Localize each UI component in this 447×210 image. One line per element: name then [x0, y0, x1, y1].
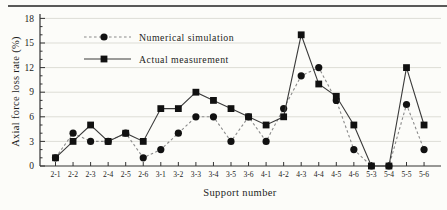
data-point-circle	[175, 130, 182, 137]
x-tick-label: 2-6	[138, 170, 148, 179]
legend-circle-marker	[100, 33, 107, 40]
data-point-circle	[263, 138, 270, 145]
data-point-square	[280, 113, 287, 120]
legend-square-marker	[101, 56, 108, 63]
data-point-square	[210, 97, 217, 104]
x-tick-label: 2-1	[50, 170, 60, 179]
data-point-square	[70, 138, 77, 145]
data-point-circle	[69, 130, 76, 137]
y-tick-label: 12	[25, 63, 35, 73]
data-point-square	[175, 105, 182, 112]
data-point-circle	[210, 113, 217, 120]
chart-figure: 03691215182-12-22-32-42-52-63-13-23-33-4…	[0, 0, 447, 210]
x-tick-label: 4-1	[261, 170, 271, 179]
x-tick-label: 5-3	[366, 170, 376, 179]
data-point-square	[298, 31, 305, 38]
x-tick-label: 3-3	[191, 170, 201, 179]
y-ticks	[40, 18, 45, 166]
data-point-circle	[140, 154, 147, 161]
x-tick-label: 2-5	[121, 170, 131, 179]
data-point-square	[263, 122, 270, 129]
legend-label: Numerical simulation	[139, 32, 234, 43]
y-tick-label: 3	[29, 137, 34, 147]
x-tick-label: 3-4	[208, 170, 218, 179]
data-point-square	[333, 93, 340, 100]
data-point-square	[403, 64, 410, 71]
data-point-circle	[192, 113, 199, 120]
data-point-square	[52, 154, 59, 161]
y-tick-labels: 0369121518	[25, 14, 35, 172]
x-tick-label: 5-5	[401, 170, 411, 179]
x-tick-label: 3-6	[243, 170, 253, 179]
x-tick-label: 3-2	[173, 170, 183, 179]
data-point-circle	[298, 72, 305, 79]
x-tick-label: 2-2	[68, 170, 78, 179]
x-axis-label: Support number	[40, 187, 440, 198]
data-point-square	[386, 163, 393, 170]
data-point-square	[122, 130, 129, 137]
data-point-circle	[420, 146, 427, 153]
legend: Numerical simulationActual measurement	[84, 32, 234, 65]
x-tick-label: 4-2	[279, 170, 289, 179]
series-actual-measurement	[52, 31, 427, 169]
data-point-square	[245, 113, 252, 120]
x-tick-label: 5-6	[419, 170, 429, 179]
data-point-circle	[87, 138, 94, 145]
legend-item-actual-measurement: Actual measurement	[84, 54, 229, 65]
y-tick-label: 9	[29, 87, 34, 97]
data-point-square	[193, 89, 200, 96]
x-tick-label: 2-3	[86, 170, 96, 179]
x-tick-label: 2-4	[103, 170, 113, 179]
data-point-square	[157, 105, 164, 112]
data-point-circle	[315, 64, 322, 71]
data-point-square	[228, 105, 235, 112]
x-tick-label: 4-3	[296, 170, 306, 179]
y-tick-label: 0	[29, 161, 34, 171]
x-tick-label: 3-5	[226, 170, 236, 179]
series-actual-measurement-line	[56, 35, 425, 166]
data-point-circle	[157, 146, 164, 153]
data-point-square	[350, 122, 357, 129]
data-point-square	[315, 81, 322, 88]
series-actual-measurement-markers	[52, 31, 427, 169]
y-tick-label: 18	[25, 14, 35, 24]
data-point-square	[368, 163, 375, 170]
data-point-circle	[403, 101, 410, 108]
x-tick-label: 4-6	[349, 170, 359, 179]
data-point-circle	[350, 146, 357, 153]
x-tick-label: 3-1	[156, 170, 166, 179]
data-point-circle	[227, 138, 234, 145]
x-tick-label: 4-5	[331, 170, 341, 179]
legend-label: Actual measurement	[139, 54, 229, 65]
x-tick-label: 4-4	[314, 170, 324, 179]
axial-force-loss-chart: 03691215182-12-22-32-42-52-63-13-23-33-4…	[0, 0, 447, 210]
x-tick-labels: 2-12-22-32-42-52-63-13-23-33-43-53-64-14…	[50, 170, 429, 179]
data-point-square	[421, 122, 428, 129]
data-point-square	[140, 138, 147, 145]
y-tick-label: 6	[29, 112, 34, 122]
x-tick-label: 5-4	[384, 170, 394, 179]
y-tick-label: 15	[25, 38, 35, 48]
legend-item-numerical-simulation: Numerical simulation	[84, 32, 234, 43]
data-point-square	[87, 122, 94, 129]
y-axis-label: Axial force loss rate (%)	[10, 22, 21, 162]
data-point-square	[105, 138, 112, 145]
